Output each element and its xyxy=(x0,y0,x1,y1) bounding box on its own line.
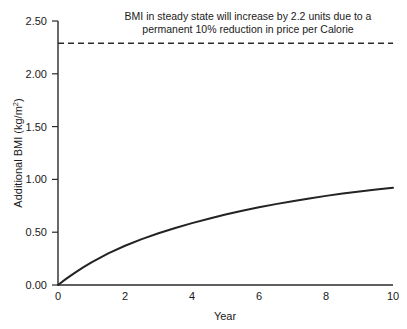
x-tick-label-0: 0 xyxy=(55,290,61,302)
y-axis-title: Additional BMI (kg/m2) xyxy=(11,98,25,207)
y-axis-title-text: Additional BMI (kg/m xyxy=(12,106,24,207)
y-tick-label-2.00: 2.00 xyxy=(26,68,47,80)
y-tick-label-0.50: 0.50 xyxy=(26,226,47,238)
chart-container: BMI in steady state will increase by 2.2… xyxy=(0,0,407,329)
bmi-transition-chart: BMI in steady state will increase by 2.2… xyxy=(0,0,407,329)
y-tick-label-1.00: 1.00 xyxy=(26,173,47,185)
chart-title-line-2: permanent 10% reduction in price per Cal… xyxy=(142,23,353,35)
x-tick-label-2: 2 xyxy=(122,290,128,302)
y-tick-label-0.00: 0.00 xyxy=(26,279,47,291)
additional-bmi-curve xyxy=(58,188,393,285)
x-tick-label-4: 4 xyxy=(189,290,195,302)
x-axis-title: Year xyxy=(214,310,237,322)
y-tick-label-2.50: 2.50 xyxy=(26,15,47,27)
chart-title-line-1: BMI in steady state will increase by 2.2… xyxy=(125,10,372,22)
y-tick-label-1.50: 1.50 xyxy=(26,121,47,133)
x-tick-label-6: 6 xyxy=(256,290,262,302)
x-tick-label-8: 8 xyxy=(323,290,329,302)
x-tick-label-10: 10 xyxy=(387,290,399,302)
